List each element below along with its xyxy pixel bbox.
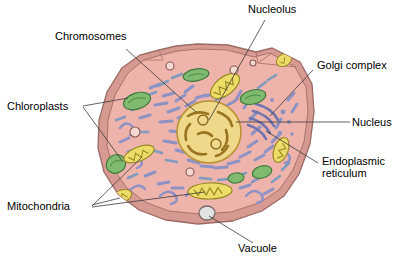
cell-diagram-canvas: Chromosomes Nucleolus Golgi complex Nucl… [0,0,399,266]
label-chromosomes: Chromosomes [55,30,127,42]
nucleus [177,101,241,163]
label-mitochondria: Mitochondria [7,200,70,212]
label-nucleus: Nucleus [352,116,392,128]
label-endoplasmic-reticulum: Endoplasmic reticulum [322,155,396,179]
label-golgi-complex: Golgi complex [317,59,387,71]
label-vacuole: Vacuole [238,242,277,254]
label-nucleolus: Nucleolus [248,3,296,15]
label-chloroplasts: Chloroplasts [7,100,68,112]
